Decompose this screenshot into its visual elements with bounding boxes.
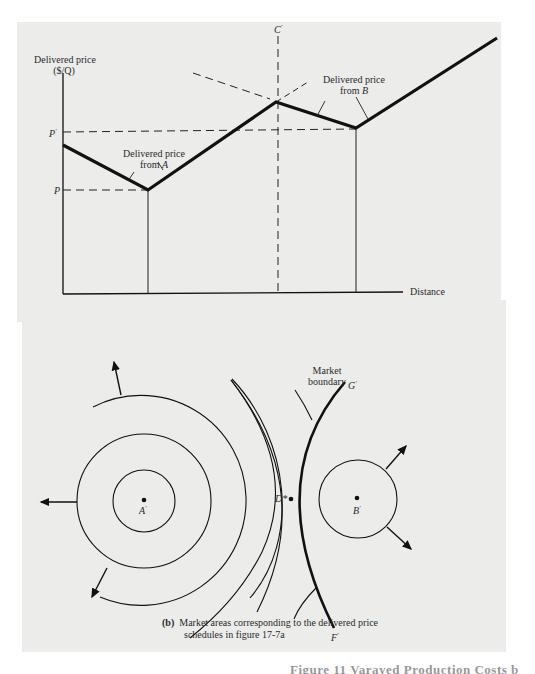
b-prime-point-label: B'	[353, 503, 361, 516]
extension-from-a-dashed	[193, 73, 270, 99]
b-point	[355, 496, 360, 501]
y-axis-label: Delivered price ($/Q)	[34, 54, 94, 76]
d-star-label: D*	[275, 493, 287, 504]
y-axis-label-line1: Delivered price	[34, 54, 94, 65]
panel-b-caption: (b) Market areas corresponding to the de…	[162, 617, 378, 641]
c-prime-label: C'	[274, 22, 282, 35]
panel-b-market-areas: Market boundary G' F' D* A' B' (b) Marke…	[22, 300, 506, 652]
p-prime-tick: P'	[49, 126, 57, 139]
y-axis-label-line2: ($/Q)	[34, 65, 94, 76]
market-boundary-label: Market boundary	[302, 365, 352, 387]
clipped-footer-text: Figure 11 Varayed Production Costs b	[60, 662, 535, 674]
market-boundary-label-line2: boundary	[302, 376, 352, 387]
annotation-delivered-price-from-b: Delivered price from B	[314, 74, 394, 96]
panel-b-caption-line2: schedules in figure 17-7a	[162, 629, 378, 641]
market-boundary-curve	[300, 382, 345, 628]
x-axis-label: Distance	[410, 286, 445, 297]
p-prime-guide	[63, 129, 356, 132]
b-arrow-up-right	[386, 446, 406, 469]
panel-b-caption-line1: (b) Market areas corresponding to the de…	[162, 617, 378, 629]
g-prime-label: G'	[348, 378, 357, 391]
annotation-b-line2: from B	[314, 85, 394, 96]
a-point	[142, 498, 147, 503]
leader-b-right	[356, 97, 368, 119]
d-star-point	[289, 497, 294, 502]
annotation-a-line1: Delivered price	[114, 148, 194, 159]
b-arc-top	[295, 390, 312, 420]
annotation-b-line1: Delivered price	[314, 74, 394, 85]
a-prime-point-label: A'	[139, 503, 147, 516]
extension-from-b-dashed	[276, 82, 308, 102]
annotation-a-line2: from A	[114, 159, 194, 170]
panel-a-delivered-price-schedules: Delivered price ($/Q) P' P A' D' B' C' D…	[17, 22, 501, 322]
b-arc-bottom	[294, 588, 316, 619]
a-outer-arc	[93, 395, 246, 605]
b-arrow-down-right	[387, 527, 411, 549]
leader-b-left	[317, 101, 325, 116]
a-arrow-up	[114, 362, 121, 395]
p-tick: P	[54, 185, 60, 196]
market-boundary-label-line1: Market	[302, 365, 352, 376]
annotation-delivered-price-from-a: Delivered price from A	[114, 148, 194, 170]
a-arrow-down-left	[92, 568, 107, 597]
market-areas-diagram	[22, 300, 506, 652]
x-axis	[63, 292, 403, 294]
